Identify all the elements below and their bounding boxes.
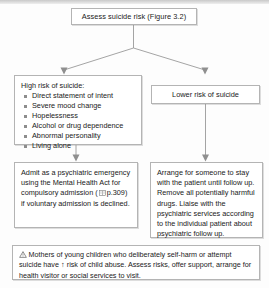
connector-branch-to-lower-risk [134,48,206,70]
arrowhead-lower-risk [202,68,209,75]
node-arrange-action: Arrange for someone to stay with the pat… [150,162,263,238]
node-lower-risk-of-suicide: Lower risk of suicide [151,85,260,104]
node-assess-suicide-risk: Assess suicide risk (Figure 3.2) [71,8,197,25]
admit-page-reference: p.309 [107,188,125,197]
list-item: Abnormal personality [21,131,136,141]
node-assess-label: Assess suicide risk (Figure 3.2) [82,12,186,21]
warning-triangle-icon [19,251,27,258]
lower-risk-label: Lower risk of suicide [172,90,239,99]
list-item: Living alone [21,141,136,151]
warning-note-text: Mothers of young children who deliberate… [19,250,253,281]
list-item: Direct statement of intent [21,91,136,101]
warning-note-box: Mothers of young children who deliberate… [12,245,260,280]
increased-risk-arrow-icon: ↑ [61,260,65,269]
book-reference-icon [99,190,106,196]
arrowhead-arrange [202,155,209,162]
arrowhead-admit [73,155,80,162]
high-risk-bullet-list: Direct statement of intent Severe mood c… [21,91,136,151]
arrange-action-text: Arrange for someone to stay with the pat… [157,168,257,239]
high-risk-heading: High risk of suicide: [21,81,136,90]
node-high-risk-of-suicide: High risk of suicide: Direct statement o… [14,75,142,145]
connector-branch-to-high-risk [64,48,134,70]
arrowhead-high-risk [61,68,68,75]
list-item: Alcohol or drug dependence [21,121,136,131]
flowchart-page: Assess suicide risk (Figure 3.2) High ri… [0,0,269,288]
list-item: Hopelessness [21,111,136,121]
list-item: Severe mood change [21,101,136,111]
admit-action-text: Admit as a psychiatric emergency using t… [21,168,132,209]
node-admit-action: Admit as a psychiatric emergency using t… [14,162,138,228]
